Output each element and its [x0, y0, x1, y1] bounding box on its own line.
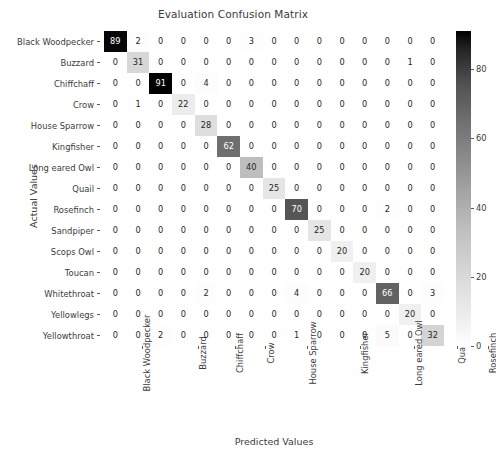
heatmap-cell-value: 0: [385, 268, 390, 276]
heatmap-cell-value: 0: [362, 121, 367, 129]
y-tick-label: Buzzard: [0, 52, 100, 73]
heatmap-cell: 0: [263, 199, 286, 220]
heatmap-cell: 0: [376, 73, 399, 94]
heatmap-cell-value: 0: [430, 37, 435, 45]
heatmap-cell-value: 0: [407, 205, 412, 213]
colorbar-tick: 80: [471, 64, 487, 74]
heatmap-cell-value: 0: [158, 205, 163, 213]
heatmap-cell: 0: [331, 262, 354, 283]
heatmap-cell-value: 0: [226, 163, 231, 171]
heatmap-cell-value: 0: [339, 205, 344, 213]
y-tick-label: Quail: [0, 178, 100, 199]
heatmap-cell-value: 0: [430, 121, 435, 129]
heatmap-cell: 0: [127, 283, 150, 304]
heatmap-cell-value: 0: [317, 58, 322, 66]
heatmap-cell: 0: [285, 262, 308, 283]
heatmap-cell-value: 0: [113, 79, 118, 87]
heatmap-cell: 0: [217, 304, 240, 325]
heatmap-cell-value: 0: [430, 100, 435, 108]
heatmap-cell: 0: [195, 262, 218, 283]
heatmap-cell: 0: [399, 73, 422, 94]
heatmap-cell: 91: [149, 73, 172, 94]
heatmap-cell: 0: [127, 178, 150, 199]
heatmap-cell: 0: [399, 31, 422, 52]
heatmap-cell: 0: [195, 157, 218, 178]
heatmap-cell-value: 0: [430, 184, 435, 192]
heatmap-cell-value: 0: [271, 310, 276, 318]
heatmap-cell: 0: [308, 52, 331, 73]
heatmap-cell-value: 0: [249, 226, 254, 234]
heatmap-cell-value: 0: [158, 184, 163, 192]
heatmap-cell: 0: [376, 115, 399, 136]
x-tick-label: Quail: [446, 349, 468, 433]
heatmap-cell-value: 5: [385, 331, 390, 339]
heatmap-cell-value: 0: [113, 226, 118, 234]
heatmap-cell: 0: [127, 220, 150, 241]
heatmap-cell: 0: [376, 94, 399, 115]
heatmap-cell: 0: [421, 241, 444, 262]
heatmap-cell: 0: [240, 52, 263, 73]
heatmap-cell: 0: [127, 199, 150, 220]
heatmap-cell: 0: [376, 178, 399, 199]
heatmap-cell-value: 0: [294, 58, 299, 66]
heatmap-cell-value: 2: [158, 331, 163, 339]
heatmap-cell-value: 2: [385, 205, 390, 213]
y-tick-label: House Sparrow: [0, 115, 100, 136]
heatmap-cell: 70: [285, 199, 308, 220]
heatmap-cell: 32: [421, 325, 444, 346]
heatmap-cell: 0: [127, 115, 150, 136]
heatmap-cell-value: 0: [158, 121, 163, 129]
heatmap-cell-value: 0: [271, 79, 276, 87]
heatmap-cell: 0: [421, 94, 444, 115]
heatmap-cell-value: 0: [181, 142, 186, 150]
heatmap-cell: 0: [285, 31, 308, 52]
heatmap-cell: 2: [376, 199, 399, 220]
heatmap-cell-value: 0: [135, 310, 140, 318]
heatmap-cell: 0: [172, 220, 195, 241]
heatmap-cell-value: 0: [271, 247, 276, 255]
heatmap-cell: 0: [285, 241, 308, 262]
colorbar-tick: 40: [471, 203, 487, 213]
y-tick-label: Whitethroat: [0, 283, 100, 304]
heatmap-cell: 0: [308, 157, 331, 178]
heatmap-cell: 0: [308, 283, 331, 304]
heatmap-cell-value: 0: [249, 142, 254, 150]
heatmap-cell: 0: [421, 178, 444, 199]
heatmap-cell-value: 0: [339, 79, 344, 87]
heatmap-cell-value: 4: [294, 289, 299, 297]
heatmap-cell-value: 0: [135, 331, 140, 339]
heatmap-cell: 0: [308, 199, 331, 220]
heatmap-cell: 0: [285, 220, 308, 241]
confusion-matrix-figure: Evaluation Confusion Matrix Actual Value…: [0, 0, 496, 460]
heatmap-cell: 0: [263, 157, 286, 178]
heatmap-cell-value: 0: [385, 247, 390, 255]
heatmap-grid: 8920000300000000031000000000001000910400…: [104, 31, 444, 346]
heatmap-cell: 0: [353, 31, 376, 52]
heatmap-cell: 0: [149, 52, 172, 73]
heatmap-cell-value: 0: [339, 268, 344, 276]
heatmap-cell-value: 0: [113, 268, 118, 276]
colorbar-tick-labels: 020406080: [471, 31, 496, 346]
heatmap-cell: 0: [240, 136, 263, 157]
heatmap-cell-value: 0: [317, 37, 322, 45]
heatmap-cell: 0: [285, 73, 308, 94]
heatmap-cell-value: 0: [317, 289, 322, 297]
heatmap-cell: 0: [149, 115, 172, 136]
heatmap-cell: 0: [353, 136, 376, 157]
heatmap-cell: 0: [285, 52, 308, 73]
heatmap-cell: 0: [399, 283, 422, 304]
heatmap-cell-value: 0: [407, 268, 412, 276]
heatmap-cell: 0: [240, 220, 263, 241]
heatmap-cell: 0: [285, 304, 308, 325]
heatmap-cell-value: 0: [317, 310, 322, 318]
heatmap-cell-value: 1: [294, 331, 299, 339]
heatmap-cell: 0: [421, 73, 444, 94]
heatmap-cell-value: 3: [249, 37, 254, 45]
heatmap-cell: 0: [263, 283, 286, 304]
heatmap-cell: 0: [172, 199, 195, 220]
heatmap-cell-value: 0: [362, 226, 367, 234]
heatmap-cell: 0: [353, 283, 376, 304]
heatmap-cell-value: 0: [271, 289, 276, 297]
heatmap-cell: 0: [421, 115, 444, 136]
heatmap-cell-value: 0: [249, 310, 254, 318]
